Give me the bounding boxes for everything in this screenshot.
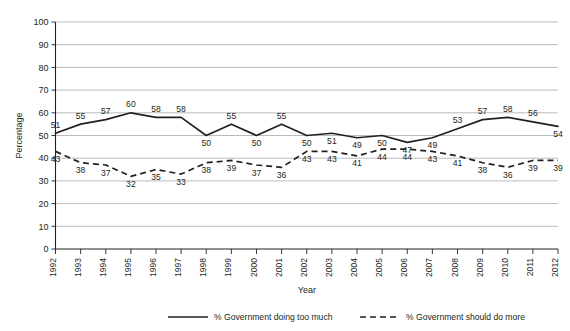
data-label: 43 <box>428 154 438 164</box>
data-label: 37 <box>252 168 262 178</box>
x-tick-label: 2004 <box>349 258 359 277</box>
x-tick-label: 2002 <box>299 258 309 277</box>
data-label: 32 <box>126 179 136 189</box>
data-label: 37 <box>101 168 111 178</box>
y-tick-label: 100 <box>33 17 48 27</box>
data-label: 41 <box>352 158 362 168</box>
data-label: 39 <box>227 163 237 173</box>
chart-canvas: 0102030405060708090100 19921993199419951… <box>0 0 570 331</box>
data-label: 51 <box>327 136 337 146</box>
x-axis-tick-labels: 1992199319941995199619971998199920002001… <box>48 258 561 277</box>
data-label: 44 <box>403 152 413 162</box>
x-tick-label: 1998 <box>198 258 208 277</box>
data-label: 54 <box>553 129 563 139</box>
data-label: 60 <box>126 99 136 109</box>
y-tick-label: 20 <box>38 199 48 209</box>
x-axis-ticks <box>56 249 559 254</box>
data-label: 43 <box>302 154 312 164</box>
legend-label-1: % Government doing too much <box>214 312 333 322</box>
data-label: 33 <box>176 177 186 187</box>
y-tick-label: 10 <box>38 222 48 232</box>
x-tick-label: 2001 <box>274 258 284 277</box>
data-label: 39 <box>553 163 563 173</box>
data-label: 43 <box>51 154 61 164</box>
data-label: 50 <box>202 138 212 148</box>
x-tick-label: 2010 <box>500 258 510 277</box>
data-label: 35 <box>151 172 161 182</box>
x-tick-label: 1993 <box>73 258 83 277</box>
data-label: 57 <box>101 106 111 116</box>
data-label: 49 <box>352 140 362 150</box>
y-tick-label: 30 <box>38 176 48 186</box>
data-label: 38 <box>76 165 86 175</box>
x-tick-label: 2005 <box>374 258 384 277</box>
data-label: 38 <box>202 165 212 175</box>
data-label: 56 <box>528 108 538 118</box>
data-label: 43 <box>327 154 337 164</box>
data-label: 55 <box>277 111 287 121</box>
x-tick-label: 1999 <box>223 258 233 277</box>
data-label: 51 <box>51 120 61 130</box>
y-tick-label: 40 <box>38 153 48 163</box>
data-label: 36 <box>277 170 287 180</box>
data-label: 39 <box>528 163 538 173</box>
line-chart: 0102030405060708090100 19921993199419951… <box>0 0 570 331</box>
data-label: 58 <box>503 104 513 114</box>
data-label: 38 <box>478 165 488 175</box>
y-tick-label: 90 <box>38 40 48 50</box>
x-tick-label: 2007 <box>424 258 434 277</box>
x-tick-label: 1995 <box>123 258 133 277</box>
data-label: 50 <box>377 138 387 148</box>
data-label: 50 <box>302 138 312 148</box>
x-axis-title: Year <box>298 285 316 295</box>
data-label: 55 <box>76 111 86 121</box>
x-tick-label: 2009 <box>475 258 485 277</box>
data-label: 49 <box>428 140 438 150</box>
y-tick-label: 80 <box>38 63 48 73</box>
x-tick-label: 2008 <box>450 258 460 277</box>
y-tick-label: 60 <box>38 108 48 118</box>
y-tick-label: 70 <box>38 85 48 95</box>
data-label: 58 <box>176 104 186 114</box>
y-axis-title: Percentage <box>14 112 24 158</box>
x-tick-label: 1994 <box>98 258 108 277</box>
x-tick-label: 2003 <box>324 258 334 277</box>
x-tick-label: 1996 <box>148 258 158 277</box>
data-label: 53 <box>453 115 463 125</box>
legend-label-2: % Government should do more <box>406 312 525 322</box>
x-tick-label: 2000 <box>249 258 259 277</box>
data-label: 36 <box>503 170 513 180</box>
data-label: 41 <box>453 158 463 168</box>
data-label: 55 <box>227 111 237 121</box>
x-tick-label: 2011 <box>525 258 535 277</box>
x-tick-label: 2006 <box>399 258 409 277</box>
y-tick-label: 0 <box>43 244 48 254</box>
x-tick-label: 1992 <box>48 258 58 277</box>
x-tick-label: 1997 <box>173 258 183 277</box>
y-tick-label: 50 <box>38 131 48 141</box>
x-tick-label: 2012 <box>550 258 560 277</box>
data-label: 44 <box>377 152 387 162</box>
data-label: 58 <box>151 104 161 114</box>
data-label: 50 <box>252 138 262 148</box>
data-label: 57 <box>478 106 488 116</box>
